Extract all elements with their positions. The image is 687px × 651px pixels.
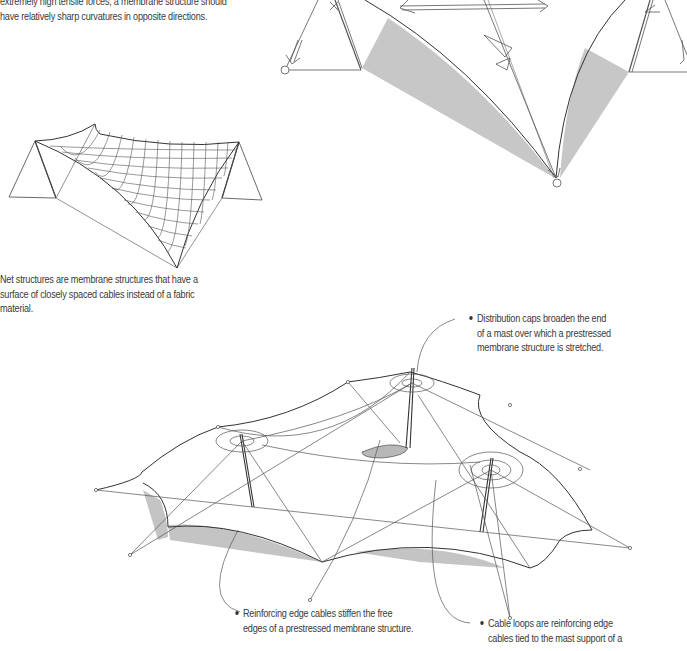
net-caption-line-1: Net structures are membrane structures t… (0, 272, 198, 287)
net-structure-caption: Net structures are membrane structures t… (0, 272, 198, 316)
callout-line: edges of a prestressed membrane structur… (243, 621, 413, 636)
callout-line: Distribution caps broaden the end (477, 311, 611, 326)
callout-line: cables tied to the mast support of a (488, 631, 622, 646)
bullet-icon (469, 316, 472, 320)
bullet-icon (480, 621, 483, 625)
callout-cable-loops: Cable loops are reinforcing edge cables … (488, 616, 622, 645)
bullet-icon (235, 611, 238, 615)
intro-line-1: extremely high tensile forces, a membran… (0, 0, 227, 9)
intro-paragraph: extremely high tensile forces, a membran… (0, 0, 227, 23)
callout-line: membrane structure is stretched. (477, 340, 611, 355)
net-caption-line-2: surface of closely spaced cables instead… (0, 287, 198, 302)
callout-line: of a mast over which a prestressed (477, 326, 611, 341)
callout-line: Cable loops are reinforcing edge (488, 616, 622, 631)
intro-line-2: have relatively sharp curvatures in oppo… (0, 9, 227, 24)
callout-line: Reinforcing edge cables stiffen the free (243, 606, 413, 621)
net-caption-line-3: material. (0, 301, 198, 316)
callout-distribution-caps: Distribution caps broaden the end of a m… (477, 311, 611, 355)
callout-reinforcing-edge-cables: Reinforcing edge cables stiffen the free… (243, 606, 413, 635)
